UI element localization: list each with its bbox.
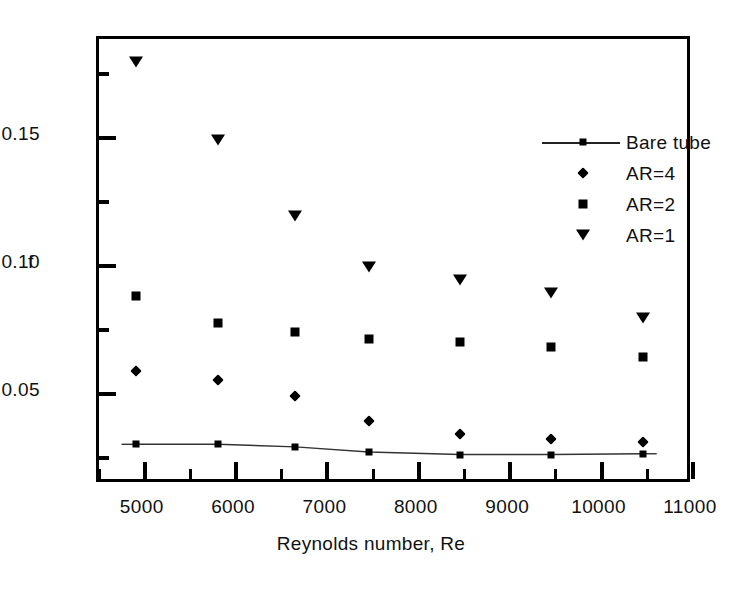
legend-diamond-icon: [577, 167, 588, 178]
x-tick-label: 11000: [663, 496, 716, 518]
x-tick-minor: [280, 469, 283, 479]
legend-marker-key: [540, 220, 626, 251]
data-point: [548, 451, 555, 458]
y-tick-minor: [99, 200, 109, 204]
data-point: [288, 211, 302, 222]
x-tick-minor: [98, 469, 101, 479]
legend-item-ar-1[interactable]: AR=1: [540, 220, 742, 251]
data-point: [453, 275, 467, 286]
x-tick-label: 7000: [303, 496, 347, 518]
data-point: [454, 428, 465, 439]
data-point: [363, 416, 374, 427]
legend-marker-key: [540, 158, 626, 189]
x-axis-title: Reynolds number, Re: [0, 533, 742, 555]
bare-tube-connector-line: [99, 39, 687, 479]
data-point: [456, 451, 463, 458]
legend-label: AR=2: [626, 194, 675, 216]
y-tick-label: 0.10: [1, 251, 40, 273]
data-point: [639, 450, 646, 457]
y-tick-major: [99, 392, 116, 396]
plot-area: Bare tubeAR=4AR=2AR=1: [96, 36, 690, 482]
legend-marker-key: [540, 127, 626, 158]
y-tick-minor: [99, 328, 109, 332]
y-tick-major: [99, 136, 116, 140]
legend-marker-key: [540, 189, 626, 220]
chart-figure: f 0.050.100.15 5000600070008000900010000…: [0, 0, 742, 589]
y-tick-label: 0.15: [1, 123, 40, 145]
data-point: [131, 291, 140, 300]
data-point: [455, 337, 464, 346]
x-tick-minor: [646, 469, 649, 479]
legend-square-icon: [579, 200, 588, 209]
x-tick-major: [508, 462, 512, 479]
legend-label: AR=1: [626, 225, 675, 247]
data-point: [213, 318, 222, 327]
data-point: [362, 261, 376, 272]
legend-triangle-down-icon: [576, 230, 590, 241]
legend-item-bare-tube[interactable]: Bare tube: [540, 127, 742, 158]
x-tick-label: 10000: [571, 496, 626, 518]
data-point: [638, 353, 647, 362]
data-point: [292, 443, 299, 450]
data-point: [291, 327, 300, 336]
data-point: [637, 436, 648, 447]
x-tick-label: 6000: [211, 496, 255, 518]
x-tick-major: [234, 462, 238, 479]
legend-label: AR=4: [626, 163, 675, 185]
x-tick-minor: [189, 469, 192, 479]
data-point: [211, 134, 225, 145]
x-tick-label: 5000: [120, 496, 164, 518]
y-tick-minor: [99, 72, 109, 76]
data-point: [129, 56, 143, 67]
x-tick-major: [143, 462, 147, 479]
chart-legend: Bare tubeAR=4AR=2AR=1: [540, 127, 742, 251]
x-tick-label: 9000: [485, 496, 529, 518]
data-point: [132, 441, 139, 448]
x-tick-label: 8000: [394, 496, 438, 518]
y-tick-major: [99, 264, 116, 268]
data-point: [365, 448, 372, 455]
data-point: [130, 366, 141, 377]
legend-item-ar-2[interactable]: AR=2: [540, 189, 742, 220]
data-point: [546, 433, 557, 444]
legend-label: Bare tube: [626, 132, 711, 154]
legend-square-line-icon: [580, 139, 587, 146]
x-tick-major: [417, 462, 421, 479]
y-tick-minor: [99, 456, 109, 460]
data-point: [290, 390, 301, 401]
legend-item-ar-4[interactable]: AR=4: [540, 158, 742, 189]
data-point: [364, 335, 373, 344]
data-point: [544, 288, 558, 299]
x-tick-major: [691, 462, 695, 479]
x-tick-major: [600, 462, 604, 479]
x-tick-minor: [372, 469, 375, 479]
x-tick-minor: [463, 469, 466, 479]
x-tick-major: [325, 462, 329, 479]
data-point: [636, 312, 650, 323]
data-point: [212, 375, 223, 386]
data-point: [547, 343, 556, 352]
x-tick-minor: [554, 469, 557, 479]
y-tick-label: 0.05: [1, 379, 40, 401]
data-point: [214, 441, 221, 448]
